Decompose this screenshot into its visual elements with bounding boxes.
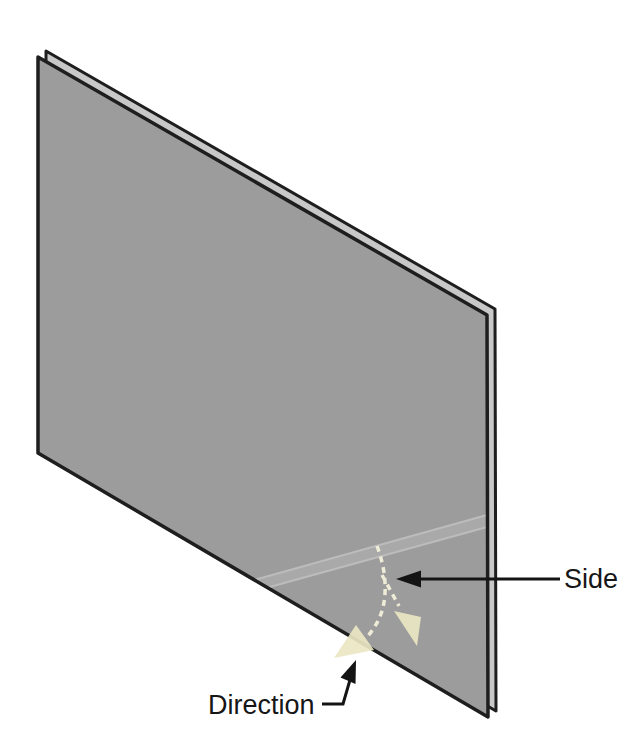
plate-illustration <box>0 0 639 752</box>
direction-callout-arrow <box>322 660 356 704</box>
side-label: Side <box>564 565 618 593</box>
figure-canvas: Side Direction <box>0 0 639 752</box>
up-right-arrow-icon <box>341 660 357 684</box>
direction-label: Direction <box>208 691 315 719</box>
